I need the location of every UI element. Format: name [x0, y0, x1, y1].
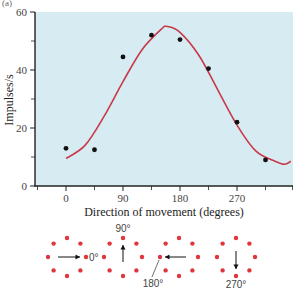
ring-dot [134, 268, 138, 272]
ring-dot [134, 241, 138, 245]
x-tick-label: 90 [118, 192, 130, 204]
ring-dot [121, 236, 125, 240]
ring-dot [107, 241, 111, 245]
ring-dot [121, 274, 125, 278]
y-axis: 0204060 [16, 6, 35, 192]
y-tick-label: 60 [16, 6, 28, 18]
ring-dot [84, 255, 88, 259]
ring-dot [163, 268, 167, 272]
ring-dot [102, 255, 106, 259]
y-axis-title: Impulses/s [2, 74, 16, 126]
direction-label: 90° [115, 223, 130, 234]
x-axis-title: Direction of movement (degrees) [84, 205, 244, 219]
ring-dot [65, 274, 69, 278]
direction-label: 270° [226, 279, 247, 290]
data-point [121, 55, 126, 60]
data-point [206, 66, 211, 71]
arrowhead-icon [76, 255, 81, 260]
ring-dot [234, 274, 238, 278]
data-point [235, 120, 240, 125]
ring-dot [46, 255, 50, 259]
x-tick-label: 270 [229, 192, 246, 204]
arrowhead-icon [165, 255, 170, 260]
ring-dot [107, 268, 111, 272]
ring-dot [177, 236, 181, 240]
ring-dot [234, 236, 238, 240]
tuning-curve-chart: (a) 0204060 090180270 Impulses/s Directi… [0, 0, 296, 293]
ring-dot [177, 274, 181, 278]
plot-area [35, 12, 293, 186]
data-point [263, 158, 268, 163]
ring-dot [247, 268, 251, 272]
data-point [92, 147, 97, 152]
ring-dot [190, 268, 194, 272]
ring-dot [215, 255, 219, 259]
direction-ring-3: 270° [215, 236, 257, 290]
direction-ring-1: 90° [102, 223, 144, 278]
ring-dot [196, 255, 200, 259]
ring-dot [247, 241, 251, 245]
panel-label: (a) [2, 0, 12, 8]
ring-dot [253, 255, 257, 259]
x-tick-label: 0 [63, 192, 69, 204]
y-tick-label: 0 [22, 180, 28, 192]
y-tick-label: 40 [16, 64, 28, 76]
direction-label: 180° [143, 278, 164, 289]
data-point [149, 33, 154, 38]
x-tick-label: 180 [172, 192, 189, 204]
leader-line [152, 260, 159, 277]
ring-dot [163, 241, 167, 245]
ring-dot [65, 236, 69, 240]
ring-dot [51, 268, 55, 272]
ring-dot [220, 241, 224, 245]
direction-label: 0° [89, 252, 99, 263]
direction-diagram: 0°90°180°270° [46, 223, 257, 290]
direction-ring-0: 0° [46, 236, 99, 278]
ring-dot [140, 255, 144, 259]
y-tick-label: 20 [16, 122, 28, 134]
ring-dot [51, 241, 55, 245]
ring-dot [158, 255, 162, 259]
ring-dot [78, 241, 82, 245]
ring-dot [190, 241, 194, 245]
arrowhead-icon [234, 265, 239, 270]
direction-ring-2: 180° [143, 236, 201, 289]
data-point [64, 146, 69, 151]
ring-dot [220, 268, 224, 272]
data-point [178, 37, 183, 42]
ring-dot [78, 268, 82, 272]
arrowhead-icon [121, 245, 126, 250]
x-axis: 090180270 [35, 186, 294, 204]
